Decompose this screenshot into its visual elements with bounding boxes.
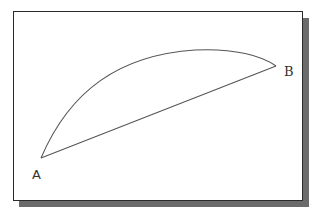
arc-a-to-b [41,50,276,158]
diagram-canvas [0,0,313,214]
point-label-a: A [32,168,41,181]
point-label-b: B [284,65,294,78]
chord-a-to-b [41,66,276,158]
